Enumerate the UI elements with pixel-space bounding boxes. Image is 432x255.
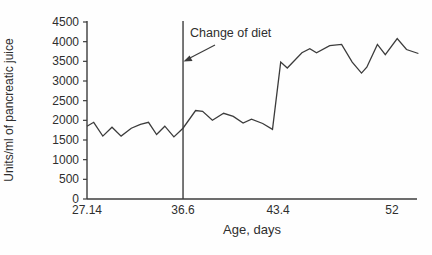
x-tick-label: 43.4 (266, 203, 290, 217)
x-tick-label: 52 (385, 203, 399, 217)
y-tick-label: 3000 (52, 74, 79, 88)
y-tick-label: 4000 (52, 35, 79, 49)
data-line-pancreatic-juice-secretion (87, 39, 418, 137)
pancreatic-juice-chart: 05001000150020002500300035004000450027.1… (0, 0, 432, 255)
annotation-arrow-head (184, 56, 193, 62)
x-tick-label: 36.6 (171, 203, 195, 217)
y-tick-label: 500 (59, 172, 79, 186)
y-tick-label: 1500 (52, 133, 79, 147)
x-tick-label: 27.14 (72, 203, 102, 217)
y-axis-title: Units/ml of pancreatic juice (2, 38, 16, 181)
y-tick-label: 3500 (52, 54, 79, 68)
y-tick-label: 4500 (52, 15, 79, 29)
y-tick-label: 2500 (52, 94, 79, 108)
y-tick-label: 1000 (52, 153, 79, 167)
y-tick-label: 2000 (52, 113, 79, 127)
x-axis-title: Age, days (223, 222, 281, 237)
annotation-arrow-shaft (188, 45, 215, 59)
change-of-diet-annotation: Change of diet (190, 26, 271, 40)
